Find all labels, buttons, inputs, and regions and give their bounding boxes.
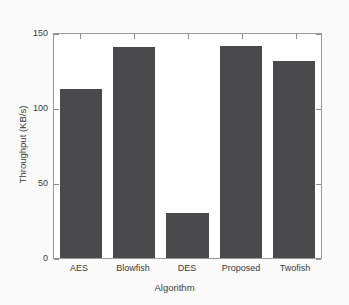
- y-tick-label-0: 0: [18, 253, 48, 263]
- bar-proposed[interactable]: [220, 46, 262, 258]
- plot-area: [53, 33, 322, 259]
- bar-des[interactable]: [166, 213, 208, 258]
- bar-aes[interactable]: [60, 89, 102, 258]
- bar-chart-figure: Throughput (KB/s) 150 100 50 0: [0, 0, 349, 305]
- x-tick-label-twofish: Twofish: [274, 263, 316, 273]
- x-tick-label-aes: AES: [58, 263, 100, 273]
- bar-blowfish[interactable]: [113, 47, 155, 258]
- x-tick-label-des: DES: [166, 263, 208, 273]
- x-tick-label-blowfish: Blowfish: [112, 263, 154, 273]
- y-tick-label-50: 50: [18, 178, 48, 188]
- x-axis-label: Algorithm: [0, 282, 349, 293]
- y-tick-mark-right-0: [316, 259, 321, 260]
- y-tick-label-100: 100: [18, 103, 48, 113]
- y-tick-label-150: 150: [18, 28, 48, 38]
- y-tick-mark-0: [54, 259, 59, 260]
- x-tick-label-proposed: Proposed: [220, 263, 262, 273]
- bar-twofish[interactable]: [273, 61, 315, 258]
- bars-layer: [54, 34, 321, 258]
